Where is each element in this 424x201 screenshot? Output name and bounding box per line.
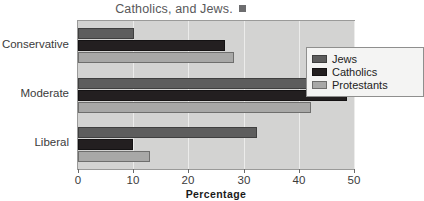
x-axis-tick xyxy=(188,169,189,173)
x-axis-tick-label: 30 xyxy=(238,174,251,186)
x-axis-tick xyxy=(354,169,355,173)
x-axis-tick-label: 40 xyxy=(293,174,306,186)
legend-item-protestants: Protestants xyxy=(312,78,418,91)
bar-catholics-liberal xyxy=(78,139,133,150)
bar-catholics-conservative xyxy=(78,40,225,51)
filled-square-marker-icon xyxy=(239,5,246,12)
x-axis-tick-label: 20 xyxy=(182,174,195,186)
bar-protestants-moderate xyxy=(78,102,311,113)
y-axis-label-liberal: Liberal xyxy=(34,136,69,148)
legend-label-protestants: Protestants xyxy=(332,79,388,91)
x-axis-tick xyxy=(244,169,245,173)
chart-legend: Jews Catholics Protestants xyxy=(306,47,424,97)
x-axis-tick-label: 0 xyxy=(75,174,81,186)
bar-jews-liberal xyxy=(78,127,257,138)
x-axis-tick xyxy=(299,169,300,173)
legend-label-catholics: Catholics xyxy=(332,66,377,78)
y-axis-label-conservative: Conservative xyxy=(2,38,69,50)
legend-item-catholics: Catholics xyxy=(312,65,418,78)
x-axis-tick-label: 50 xyxy=(348,174,361,186)
legend-item-jews: Jews xyxy=(312,52,418,65)
bar-protestants-liberal xyxy=(78,151,150,162)
plot-area: Jews Catholics Protestants xyxy=(77,20,355,170)
caption-text: Catholics, and Jews. xyxy=(115,2,233,16)
legend-swatch-jews xyxy=(312,55,327,63)
figure-caption: Catholics, and Jews. xyxy=(0,1,361,18)
x-axis-tick xyxy=(133,169,134,173)
x-axis-tick-label: 10 xyxy=(127,174,140,186)
x-axis-tick xyxy=(78,169,79,173)
y-axis-label-moderate: Moderate xyxy=(20,87,69,99)
legend-swatch-catholics xyxy=(312,68,327,76)
y-axis-labels: ConservativeModerateLiberal xyxy=(0,20,73,168)
bar-protestants-conservative xyxy=(78,52,234,63)
x-axis-title: Percentage xyxy=(77,188,355,200)
legend-swatch-protestants xyxy=(312,81,327,89)
legend-label-jews: Jews xyxy=(332,53,357,65)
bar-jews-conservative xyxy=(78,28,134,39)
